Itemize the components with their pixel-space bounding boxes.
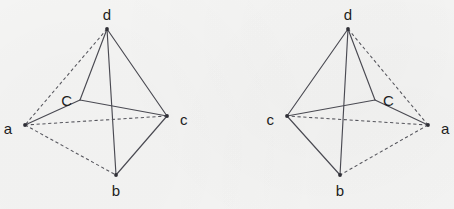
- edge-d-a: [25, 29, 107, 125]
- edge-d-b: [107, 29, 116, 175]
- vertex-dot-a: [426, 123, 430, 127]
- edge-a-b: [340, 125, 428, 175]
- centroid-label-C: C: [383, 92, 394, 109]
- edge-c-b: [287, 116, 340, 175]
- vertex-dot-b: [114, 173, 118, 177]
- tetrahedra-figure: dacbCdacbC: [0, 0, 454, 209]
- vertex-label-d: d: [103, 6, 111, 23]
- vertex-label-a: a: [4, 120, 13, 137]
- centroid-label-C: C: [61, 92, 72, 109]
- vertex-dot-b: [338, 173, 342, 177]
- vertex-dot-d: [346, 27, 350, 31]
- edge-d-a: [348, 29, 428, 125]
- edge-a-c: [25, 116, 167, 125]
- vertex-dot-c: [165, 114, 169, 118]
- tetrahedron-right: dacbC: [267, 6, 451, 199]
- edge-c-b: [116, 116, 167, 175]
- edge-a-c: [287, 116, 428, 125]
- edge-a-b: [25, 125, 116, 175]
- vertex-label-c: c: [267, 111, 275, 128]
- edge-C-d: [348, 29, 375, 100]
- edge-d-b: [340, 29, 348, 175]
- edge-C-d: [80, 29, 107, 100]
- vertex-label-a: a: [441, 120, 450, 137]
- tetrahedron-left: dacbC: [4, 6, 188, 199]
- edge-d-c: [287, 29, 348, 116]
- vertex-label-c: c: [180, 111, 188, 128]
- vertex-dot-a: [23, 123, 27, 127]
- vertex-dot-c: [285, 114, 289, 118]
- vertex-dot-d: [105, 27, 109, 31]
- edge-C-c: [80, 100, 167, 116]
- edge-C-c: [287, 100, 375, 116]
- vertex-label-b: b: [112, 182, 120, 199]
- vertex-label-d: d: [344, 6, 352, 23]
- edge-d-c: [107, 29, 167, 116]
- vertex-label-b: b: [336, 182, 344, 199]
